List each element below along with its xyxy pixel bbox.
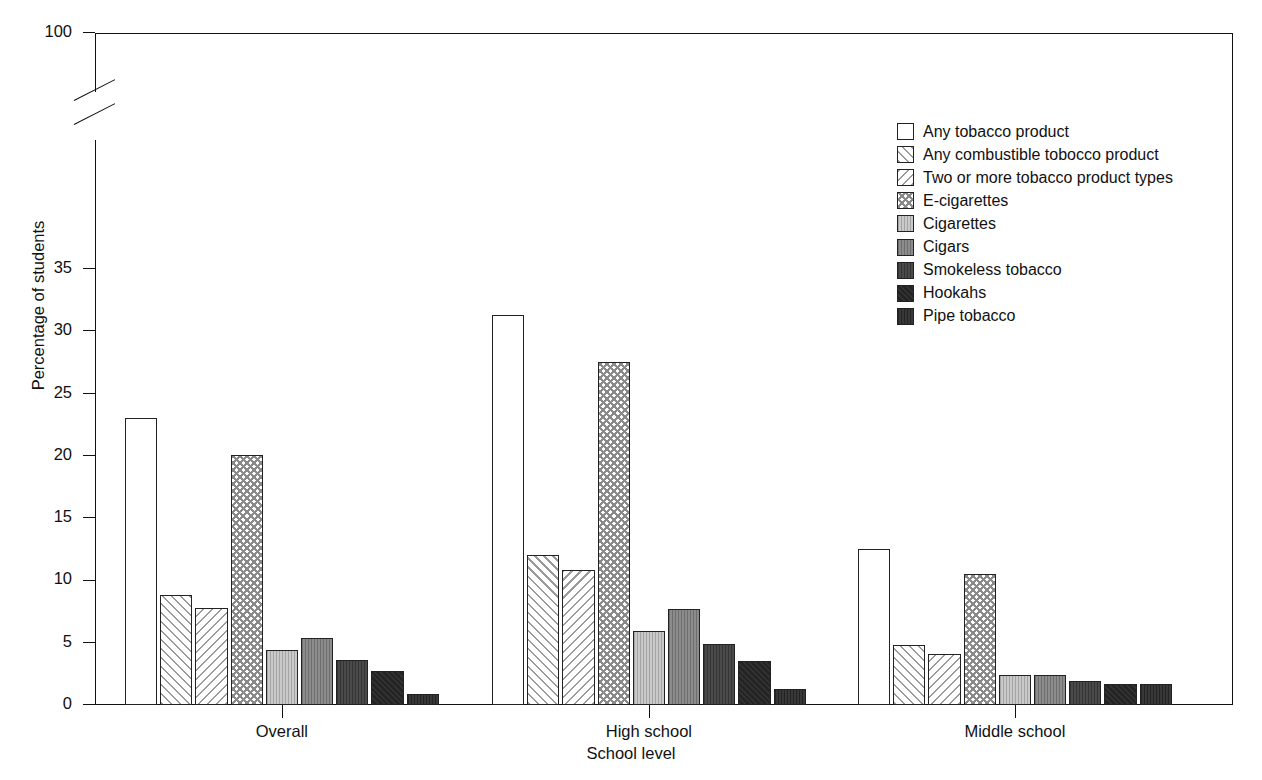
legend-label: E-cigarettes xyxy=(923,193,1008,209)
bar xyxy=(964,574,996,705)
bar xyxy=(371,671,403,705)
y-tick xyxy=(83,517,95,518)
legend-label: Hookahs xyxy=(923,285,986,301)
legend-item: Smokeless tobacco xyxy=(897,259,1227,282)
legend-swatch-icon xyxy=(897,146,914,163)
bar xyxy=(668,609,700,705)
legend-swatch-icon xyxy=(897,308,914,325)
legend-item: Pipe tobacco xyxy=(897,305,1227,328)
y-tick-label: 25 xyxy=(12,383,72,402)
y-tick-label: 15 xyxy=(12,507,72,526)
bar xyxy=(562,570,594,705)
legend-label: Two or more tobacco product types xyxy=(923,170,1173,186)
y-tick xyxy=(83,704,95,705)
bar xyxy=(893,645,925,705)
chart-figure: Percentage of students School level 0510… xyxy=(0,0,1262,780)
bar xyxy=(738,661,770,705)
bar xyxy=(1069,681,1101,705)
legend-swatch-icon xyxy=(897,262,914,279)
legend-swatch-icon xyxy=(897,285,914,302)
bar xyxy=(527,555,559,705)
legend-swatch-icon xyxy=(897,123,914,140)
x-group-tick xyxy=(1015,705,1016,718)
bar xyxy=(598,362,630,705)
y-tick xyxy=(83,32,95,33)
bar xyxy=(633,631,665,705)
y-tick-label: 10 xyxy=(12,569,72,588)
y-tick xyxy=(83,268,95,269)
bar xyxy=(774,689,806,705)
bar xyxy=(125,418,157,705)
x-group-tick xyxy=(282,705,283,718)
bar xyxy=(160,595,192,705)
y-tick-label: 20 xyxy=(12,445,72,464)
y-tick-label: 0 xyxy=(12,694,72,713)
legend-item: Two or more tobacco product types xyxy=(897,166,1227,189)
legend-item: Cigars xyxy=(897,235,1227,258)
legend-swatch-icon xyxy=(897,169,914,186)
bar xyxy=(492,315,524,705)
y-tick xyxy=(83,580,95,581)
y-tick xyxy=(83,642,95,643)
bar xyxy=(266,650,298,705)
x-group-label: Overall xyxy=(152,722,412,741)
legend-item: E-cigarettes xyxy=(897,189,1227,212)
legend-swatch-icon xyxy=(897,215,914,232)
legend-label: Cigarettes xyxy=(923,216,996,232)
x-group-label: High school xyxy=(519,722,779,741)
x-group-label: Middle school xyxy=(885,722,1145,741)
legend-swatch-icon xyxy=(897,239,914,256)
bar xyxy=(1104,684,1136,705)
bar xyxy=(336,660,368,705)
legend-item: Cigarettes xyxy=(897,212,1227,235)
bar xyxy=(407,694,439,705)
bar xyxy=(928,654,960,705)
x-axis-label: School level xyxy=(0,744,1262,763)
y-tick-label: 30 xyxy=(12,320,72,339)
legend-item: Any tobacco product xyxy=(897,120,1227,143)
legend-swatch-icon xyxy=(897,192,914,209)
bar xyxy=(858,549,890,705)
legend-label: Cigars xyxy=(923,239,969,255)
bar xyxy=(195,608,227,705)
legend-item: Any combustible tobocco product xyxy=(897,143,1227,166)
legend-label: Any tobacco product xyxy=(923,124,1069,140)
y-tick-label: 35 xyxy=(12,258,72,277)
legend: Any tobacco productAny combustible toboc… xyxy=(897,120,1227,328)
legend-label: Any combustible tobocco product xyxy=(923,147,1159,163)
y-tick xyxy=(83,455,95,456)
bar xyxy=(1140,684,1172,705)
bar xyxy=(703,644,735,705)
bar xyxy=(301,638,333,705)
legend-label: Pipe tobacco xyxy=(923,308,1016,324)
legend-label: Smokeless tobacco xyxy=(923,262,1062,278)
legend-item: Hookahs xyxy=(897,282,1227,305)
y-tick-label: 100 xyxy=(12,22,72,41)
y-tick-label: 5 xyxy=(12,632,72,651)
y-tick xyxy=(83,393,95,394)
bar xyxy=(999,675,1031,705)
y-tick xyxy=(83,330,95,331)
bar xyxy=(1034,675,1066,705)
x-group-tick xyxy=(649,705,650,718)
bar xyxy=(231,455,263,705)
